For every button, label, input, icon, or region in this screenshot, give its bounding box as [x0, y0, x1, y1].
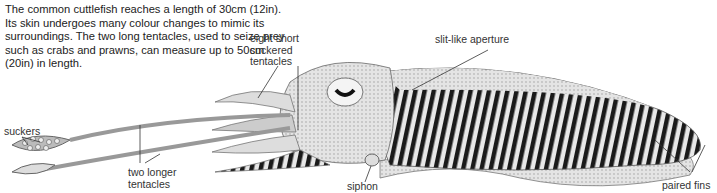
label-eight-short-tentacles: eight short suckered tentacles: [250, 33, 312, 68]
label-siphon: siphon: [347, 181, 378, 193]
label-slit-like-aperture: slit-like aperture: [435, 34, 509, 46]
label-suckers: suckers: [4, 126, 40, 138]
label-two-longer-tentacles: two longer tentacles: [128, 167, 198, 190]
cuttlefish-illustration: [0, 0, 717, 193]
label-paired-fins: paired fins: [662, 180, 710, 192]
